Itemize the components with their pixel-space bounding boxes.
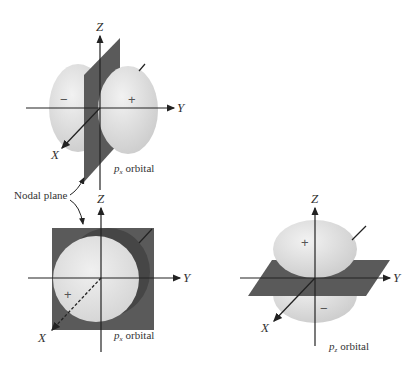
z-axis-label: Z xyxy=(96,19,104,34)
sign-positive: + xyxy=(128,92,136,107)
callout-arrow-up xyxy=(70,178,84,195)
x-axis-label: X xyxy=(50,147,60,162)
pz-orbital-label: pzorbital xyxy=(328,340,369,354)
px-orbital-label: pxorbital xyxy=(113,162,154,176)
orbital-diagram: Z Y X − + pxorbital Nodal plane Z Y X + … xyxy=(0,0,416,369)
px-front-orbital-label: pxorbital xyxy=(113,329,154,343)
y-axis-label: Y xyxy=(183,270,192,285)
px-orbital-panel: Z Y X − + pxorbital xyxy=(26,19,186,190)
sign-positive: + xyxy=(64,287,72,302)
y-axis-label: Y xyxy=(177,100,186,115)
y-axis-label: Y xyxy=(393,270,402,285)
x-axis-back xyxy=(352,226,366,240)
z-axis-label: Z xyxy=(311,191,319,206)
sign-negative: − xyxy=(60,92,68,107)
sign-positive: + xyxy=(301,235,309,250)
x-axis-label: X xyxy=(260,320,270,335)
callout-arrow-down xyxy=(70,200,83,224)
x-axis-label: X xyxy=(37,330,47,345)
sign-negative: − xyxy=(320,301,328,316)
nodal-plane-label: Nodal plane xyxy=(14,189,68,201)
nodal-plane-callout: Nodal plane xyxy=(14,178,84,224)
x-axis-back xyxy=(139,64,145,71)
pz-orbital-panel: Z Y X + − pzorbital xyxy=(240,191,402,354)
lobe-positive xyxy=(98,66,158,154)
px-front-panel: Z Y X + pxorbital xyxy=(28,191,192,352)
lobe-positive xyxy=(53,236,139,322)
z-axis-label: Z xyxy=(97,191,105,206)
